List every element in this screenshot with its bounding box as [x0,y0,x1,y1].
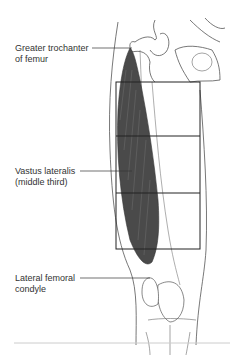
pelvis-outline [130,18,225,82]
label-vastus-lateralis: Vastus lateralis (middle third) [15,166,75,188]
label-line: condyle [15,284,75,295]
label-line: of femur [15,54,89,65]
label-line: Greater trochanter [15,43,89,54]
label-greater-trochanter: Greater trochanter of femur [15,43,89,65]
patella [158,282,184,322]
thigh-outline-right [196,90,207,345]
vastus-lateralis-muscle [118,48,159,264]
lateral-condyle [142,278,159,307]
label-line: Vastus lateralis [15,166,75,177]
tibia [146,319,196,355]
label-line: (middle third) [15,177,75,188]
label-lateral-femoral-condyle: Lateral femoral condyle [15,273,75,295]
label-line: Lateral femoral [15,273,75,284]
